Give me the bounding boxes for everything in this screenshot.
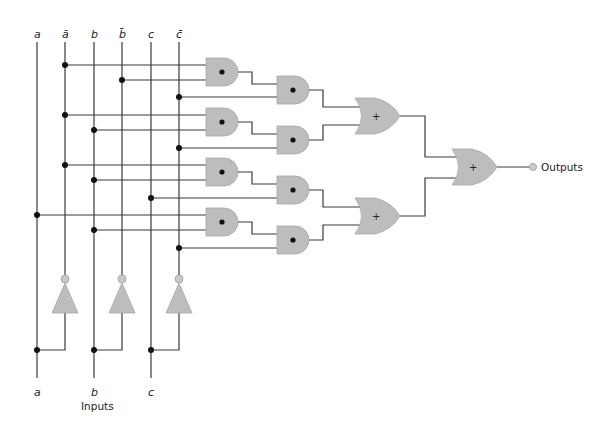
label-bottom-b: b: [91, 386, 98, 399]
junction-c-bottom: [148, 347, 154, 353]
or-gate-1: +: [355, 98, 400, 134]
and-input-wires: [37, 65, 278, 248]
or-symbol-icon: +: [372, 111, 380, 122]
output-terminal-icon: [529, 163, 536, 170]
and-gate-1: [206, 58, 238, 86]
and-symbol-icon: [290, 237, 295, 242]
and-symbol-icon: [219, 119, 224, 124]
outputs-label: Outputs: [541, 161, 583, 173]
inversion-bubble-icon: [118, 275, 126, 283]
or-gate-final: +: [452, 149, 497, 185]
and-gate-5: [206, 158, 238, 186]
label-top-b-bar: b̄: [119, 28, 126, 41]
input-buses: [37, 42, 179, 378]
inverter-feed-wires: [37, 313, 179, 350]
and-symbol-icon: [219, 219, 224, 224]
and-symbol-icon: [219, 169, 224, 174]
and-gate-3: [206, 108, 238, 136]
and-symbol-icon: [290, 137, 295, 142]
or-symbol-icon: +: [469, 162, 477, 173]
not-gate-c: [166, 275, 192, 313]
and-gate-6: [277, 176, 309, 204]
junctions: [34, 62, 182, 251]
logic-circuit-diagram: a ā b b̄ c c̄: [0, 0, 608, 426]
and-gate-2: [277, 76, 309, 104]
and-gate-7: [206, 208, 238, 236]
or-symbol-icon: +: [372, 211, 380, 222]
label-top-a-bar: ā: [62, 28, 69, 41]
not-gate-a: [52, 275, 78, 313]
label-bottom-a: a: [34, 386, 41, 399]
not-gate-b: [109, 275, 135, 313]
label-top-a: a: [34, 28, 41, 41]
and-chain-wires: [238, 72, 278, 234]
label-top-c-bar: c̄: [176, 28, 183, 41]
inputs-label: Inputs: [81, 400, 114, 412]
label-bottom-c: c: [148, 386, 154, 399]
and-to-or-wires: [309, 90, 360, 240]
and-gate-8: [277, 226, 309, 254]
label-top-c: c: [148, 28, 154, 41]
and-gate-4: [277, 126, 309, 154]
or-gate-2: +: [355, 198, 400, 234]
inversion-bubble-icon: [175, 275, 183, 283]
or-to-or-wires: [400, 116, 457, 216]
junction-b-bottom: [91, 347, 97, 353]
label-top-b: b: [91, 28, 98, 41]
and-symbol-icon: [219, 69, 224, 74]
and-symbol-icon: [290, 187, 295, 192]
and-symbol-icon: [290, 87, 295, 92]
junction-a-bottom: [34, 347, 40, 353]
inversion-bubble-icon: [61, 275, 69, 283]
